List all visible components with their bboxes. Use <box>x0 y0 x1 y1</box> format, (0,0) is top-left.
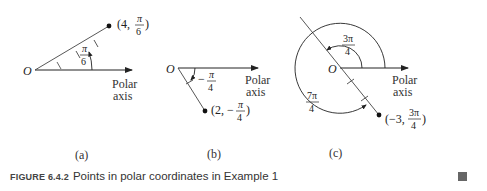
angle-sign-b: − <box>198 72 205 86</box>
angle2-den-c: 4 <box>309 103 314 114</box>
ray-a <box>35 26 109 70</box>
axis-label-a-2: axis <box>113 89 133 103</box>
axis-label-c-2: axis <box>393 85 413 99</box>
point-num-b: π <box>238 99 244 110</box>
angle-den-a: 6 <box>81 56 86 67</box>
angle-den-b: 4 <box>208 82 213 93</box>
figure-caption: FIGURE 6.4.2Points in polar coordinates … <box>10 170 278 182</box>
angle1-num-c: 3π <box>343 33 353 44</box>
figure-number: FIGURE 6.4.2 <box>10 172 69 182</box>
panel-a: O Polar axis π 6 (4, π 6 ) (a) <box>23 13 149 162</box>
point-c <box>377 113 382 118</box>
point-close-c: ) <box>422 112 426 126</box>
point-b <box>203 109 208 114</box>
point-close-a: ) <box>145 17 149 31</box>
point-label-c: (−3, <box>385 112 405 126</box>
panel-b: O Polar axis − π 4 (2, − π 4 ) (b) <box>166 62 270 161</box>
end-of-example-mark <box>458 172 467 181</box>
origin-label-b: O <box>166 62 175 76</box>
angle2-num-c: 7π <box>307 90 317 101</box>
caption-text: Points in polar coordinates in Example 1 <box>73 170 278 182</box>
point-close-b: ) <box>246 103 250 117</box>
panel-c: O Polar axis 3π 4 7π 4 (−3, 3π 4 ) (c) <box>295 17 426 160</box>
point-label-b: (2, − <box>211 103 234 117</box>
point-den-c: 4 <box>411 120 416 131</box>
point-label-a: (4, <box>117 17 130 31</box>
point-num-a: π <box>137 13 143 24</box>
axis-label-b-2: axis <box>246 85 266 99</box>
tick-marks-c <box>347 79 368 101</box>
panel-label-a: (a) <box>75 148 88 162</box>
angle-arc-a <box>89 52 92 70</box>
point-den-b: 4 <box>237 112 242 123</box>
origin-label-c: O <box>328 62 337 76</box>
angle1-den-c: 4 <box>345 46 350 57</box>
angle-arc-b <box>191 68 195 80</box>
point-a <box>107 24 112 29</box>
panel-label-c: (c) <box>329 146 342 160</box>
origin-label-a: O <box>23 64 32 78</box>
point-num-c: 3π <box>409 107 419 118</box>
polar-points-figure: O Polar axis π 6 (4, π 6 ) (a) O Polar a… <box>0 0 487 191</box>
point-den-a: 6 <box>136 26 141 37</box>
angle-num-a: π <box>82 43 88 54</box>
panel-label-b: (b) <box>207 147 221 161</box>
angle-num-b: π <box>209 69 215 80</box>
